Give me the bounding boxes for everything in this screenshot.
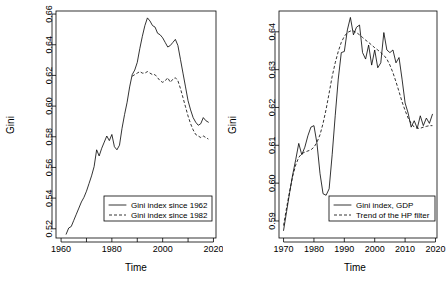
- legend-label-1: Gini index since 1982: [131, 211, 208, 220]
- y-tick-label: 0.62: [267, 99, 277, 117]
- chart-panel-left: 0.520.540.560.580.600.620.640.6619601980…: [0, 0, 223, 286]
- legend-label-0: Gini index, GDP: [356, 201, 413, 210]
- chart-svg-right: 0.590.600.610.620.630.641970198019902000…: [224, 0, 447, 286]
- y-tick-label: 0.54: [44, 189, 54, 207]
- x-tick-label: 1980: [102, 244, 122, 254]
- y-tick-label: 0.58: [44, 128, 54, 146]
- y-tick-label: 0.63: [267, 61, 277, 79]
- x-axis-title-left: Time: [125, 262, 147, 273]
- y-tick-label: 0.64: [267, 23, 277, 41]
- y-tick-label: 0.60: [44, 97, 54, 115]
- y-tick-label: 0.66: [44, 5, 54, 23]
- x-tick-label: 2020: [425, 244, 445, 254]
- x-tick-label: 2010: [395, 244, 415, 254]
- x-tick-label: 2020: [203, 244, 223, 254]
- y-tick-label: 0.60: [267, 174, 277, 192]
- y-tick-label: 0.64: [44, 36, 54, 54]
- x-tick-label: 2000: [365, 244, 385, 254]
- x-tick-label: 1970: [274, 244, 294, 254]
- legend-label-1: Trend of the HP filter: [356, 211, 430, 220]
- x-tick-label: 1960: [51, 244, 71, 254]
- figure-container: 0.520.540.560.580.600.620.640.6619601980…: [0, 0, 447, 286]
- y-tick-label: 0.59: [267, 212, 277, 230]
- y-axis-title-right: Gini: [227, 116, 238, 134]
- y-tick-label: 0.61: [267, 137, 277, 155]
- x-tick-label: 1990: [334, 244, 354, 254]
- series-line-1: [132, 72, 208, 139]
- x-axis-title-right: Time: [344, 262, 366, 273]
- legend-label-0: Gini index since 1962: [131, 201, 208, 210]
- plot-area-right: 0.590.600.610.620.630.641970198019902000…: [267, 11, 445, 254]
- plot-area-left: 0.520.540.560.580.600.620.640.6619601980…: [44, 5, 223, 254]
- chart-svg-left: 0.520.540.560.580.600.620.640.6619601980…: [0, 0, 223, 286]
- y-tick-label: 0.52: [44, 220, 54, 238]
- chart-panel-right: 0.590.600.610.620.630.641970198019902000…: [224, 0, 447, 286]
- y-axis-title-left: Gini: [5, 116, 16, 134]
- x-tick-label: 1980: [304, 244, 324, 254]
- y-tick-label: 0.56: [44, 159, 54, 177]
- x-tick-label: 2000: [153, 244, 173, 254]
- y-tick-label: 0.62: [44, 67, 54, 85]
